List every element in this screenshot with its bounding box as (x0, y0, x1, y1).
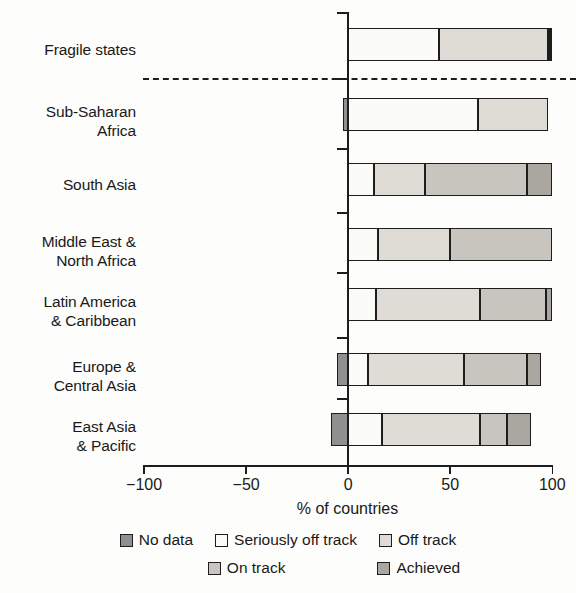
x-tick-label: 100 (522, 476, 576, 494)
bar-segment (348, 288, 377, 321)
bar-row (0, 228, 576, 261)
legend-swatch-icon (377, 562, 390, 575)
x-tick (143, 465, 145, 474)
bar-segment (480, 288, 545, 321)
legend-item[interactable]: No data (120, 531, 193, 549)
x-tick-label: 0 (318, 476, 378, 494)
legend-label: Off track (398, 531, 456, 549)
bar-segment (382, 413, 480, 446)
category-axis-tick (337, 272, 348, 274)
x-tick (245, 465, 247, 474)
x-tick-label: −100 (114, 476, 174, 494)
bar-row (0, 288, 576, 321)
legend-label: On track (227, 559, 286, 577)
legend-row-1: No dataSeriously off trackOff track (0, 527, 576, 553)
legend-label: Seriously off track (234, 531, 357, 549)
bar-segment (348, 228, 379, 261)
bar-segment (439, 28, 547, 61)
category-axis-tick (337, 12, 348, 14)
legend-label: No data (139, 531, 193, 549)
bar-segment (348, 413, 383, 446)
bar-segment (425, 163, 527, 196)
x-tick (552, 465, 554, 474)
category-axis-tick (337, 148, 348, 150)
x-tick-label: 50 (420, 476, 480, 494)
bar-segment (450, 228, 552, 261)
legend-item[interactable]: On track (208, 559, 286, 577)
bar-segment (368, 353, 464, 386)
legend-swatch-icon (120, 534, 133, 547)
bar-row (0, 98, 576, 131)
fragile-states-divider (143, 78, 576, 80)
legend-item[interactable]: Off track (379, 531, 456, 549)
plot-area (0, 0, 576, 470)
bar-segment (337, 353, 347, 386)
category-axis-tick (337, 337, 348, 339)
bar-segment (480, 413, 507, 446)
bar-segment (507, 413, 531, 446)
legend-swatch-icon (215, 534, 228, 547)
bar-segment (527, 353, 541, 386)
bar-segment (527, 163, 551, 196)
legend-label: Achieved (396, 559, 460, 577)
bar-segment (348, 98, 479, 131)
bar-segment (464, 353, 527, 386)
bar-segment (331, 413, 347, 446)
x-tick (449, 465, 451, 474)
bar-row (0, 353, 576, 386)
bar-segment (348, 163, 375, 196)
bar-segment (550, 28, 552, 61)
bar-row (0, 163, 576, 196)
category-axis-tick (337, 398, 348, 400)
legend-row-2: On trackAchieved (0, 555, 576, 581)
bar-segment (378, 228, 449, 261)
legend-swatch-icon (379, 534, 392, 547)
x-tick-label: −50 (216, 476, 276, 494)
bar-chart: Fragile statesSub-SaharanAfricaSouth Asi… (0, 0, 576, 593)
bar-segment (376, 288, 480, 321)
bar-segment (374, 163, 425, 196)
category-axis-tick (337, 212, 348, 214)
bar-segment (348, 28, 440, 61)
x-axis-title: % of countries (143, 500, 552, 518)
bar-row (0, 413, 576, 446)
chart-legend: No dataSeriously off trackOff track On t… (0, 527, 576, 589)
bar-row (0, 28, 576, 61)
legend-item[interactable]: Achieved (377, 559, 460, 577)
bar-segment (478, 98, 547, 131)
legend-swatch-icon (208, 562, 221, 575)
bar-segment (546, 288, 552, 321)
category-axis-tick (337, 78, 348, 80)
x-tick (347, 465, 349, 474)
legend-item[interactable]: Seriously off track (215, 531, 357, 549)
bar-segment (348, 353, 368, 386)
